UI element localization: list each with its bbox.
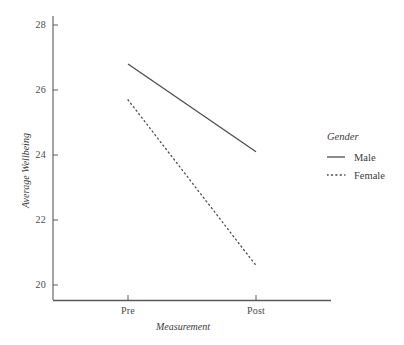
y-tick-label-22: 22 xyxy=(20,214,46,225)
legend-title: Gender xyxy=(327,131,403,142)
y-tick-marks xyxy=(53,25,58,285)
y-tick-label-28: 28 xyxy=(20,19,46,30)
x-axis-title: Measurement xyxy=(156,321,210,332)
legend-label-female: Female xyxy=(354,170,385,181)
legend: Gender Male Female xyxy=(327,131,403,185)
y-tick-label-20: 20 xyxy=(20,279,46,290)
legend-key-dotted-line-icon xyxy=(327,170,347,180)
series-line-female xyxy=(128,100,256,266)
y-tick-label-26: 26 xyxy=(20,84,46,95)
x-tick-label-post: Post xyxy=(236,305,276,316)
y-axis-title: Average Wellbeing xyxy=(20,133,31,208)
line-chart: 28 26 24 22 20 Pre Post Average Wellbein… xyxy=(0,0,404,345)
legend-label-male: Male xyxy=(354,152,376,163)
series-line-male xyxy=(128,64,256,152)
legend-item-female[interactable]: Female xyxy=(327,167,403,183)
x-tick-label-pre: Pre xyxy=(108,305,148,316)
x-tick-marks xyxy=(128,295,256,300)
legend-key-solid-line-icon xyxy=(327,152,347,162)
legend-item-male[interactable]: Male xyxy=(327,149,403,165)
